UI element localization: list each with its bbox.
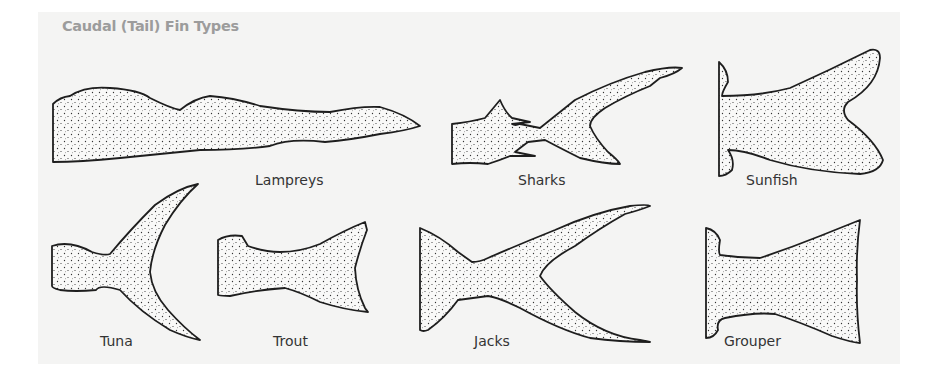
tuna-fin-shape — [52, 184, 200, 340]
jacks-fin-shape — [420, 205, 650, 342]
shark-fin-shape — [452, 68, 682, 165]
fin-illustrations — [0, 0, 940, 379]
trout-fin-shape — [218, 222, 368, 312]
label-tuna: Tuna — [100, 333, 133, 349]
grouper-fin-shape — [706, 220, 860, 343]
label-jacks: Jacks — [474, 333, 510, 349]
label-sunfish: Sunfish — [746, 172, 798, 188]
sunfish-fin-shape — [719, 50, 883, 176]
diagram-canvas: Caudal (Tail) Fin Types — [0, 0, 940, 379]
label-trout: Trout — [273, 333, 308, 349]
label-sharks: Sharks — [518, 172, 566, 188]
label-lampreys: Lampreys — [255, 172, 324, 188]
lamprey-fin-shape — [53, 88, 420, 162]
label-grouper: Grouper — [724, 333, 781, 349]
